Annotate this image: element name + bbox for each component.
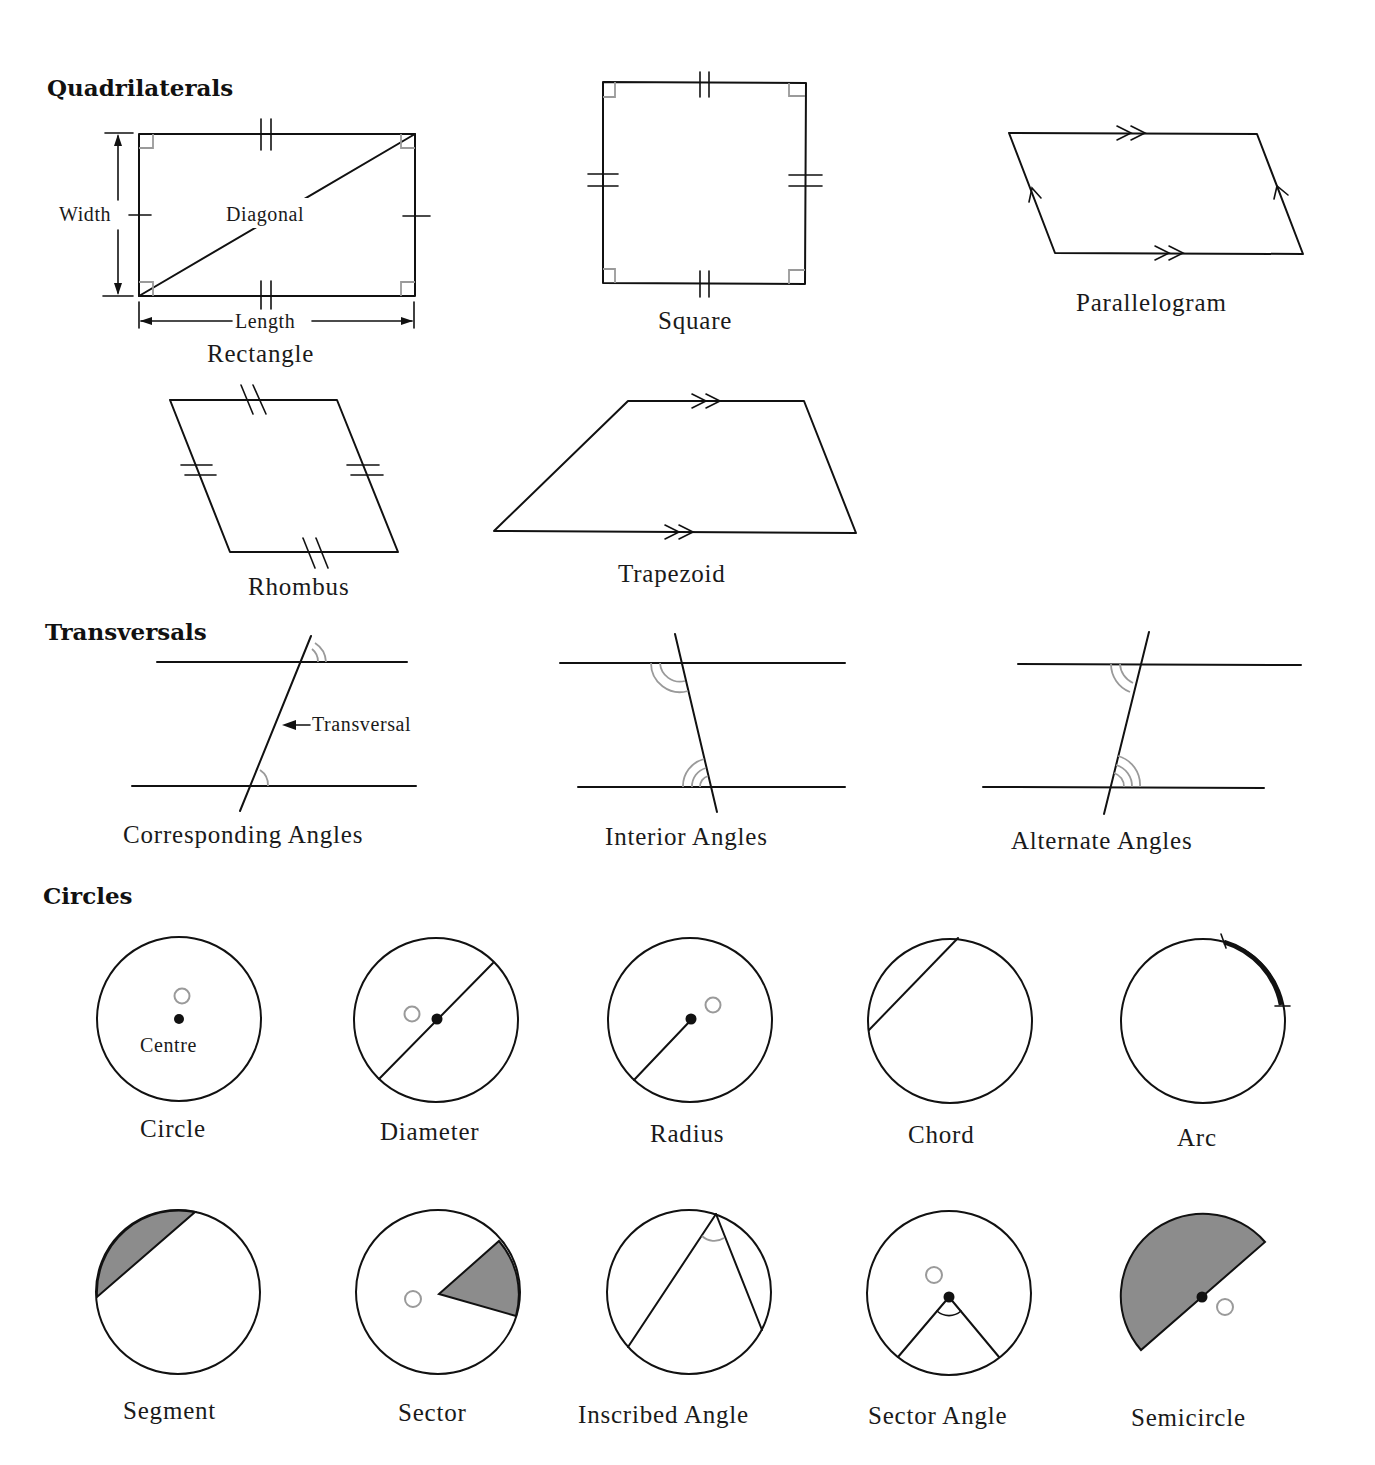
transversal-pointer-label: Transversal bbox=[312, 713, 411, 735]
parallel-line bbox=[1018, 664, 1301, 665]
arc-figure: Arc bbox=[1121, 934, 1290, 1151]
angle-arc bbox=[1114, 773, 1124, 787]
corresponding-angles-caption: Corresponding Angles bbox=[123, 821, 363, 848]
parallelogram-outline bbox=[1009, 133, 1303, 254]
angle-arc bbox=[700, 776, 708, 787]
chord-line bbox=[716, 1214, 762, 1330]
shaded-segment bbox=[97, 1210, 195, 1297]
angle-arc bbox=[660, 663, 685, 682]
corresponding-angles-figure: Transversal Corresponding Angles bbox=[123, 636, 416, 848]
parallelogram-caption: Parallelogram bbox=[1076, 289, 1227, 316]
highlighted-arc bbox=[1224, 942, 1281, 1005]
segment-figure: Segment bbox=[96, 1210, 260, 1424]
rectangle-figure: Diagonal Width Length Rectangle bbox=[59, 119, 430, 367]
centre-label: Centre bbox=[140, 1034, 197, 1056]
interior-angles-caption: Interior Angles bbox=[605, 823, 768, 850]
sector-figure: Sector bbox=[356, 1210, 520, 1426]
interior-angles-figure: Interior Angles bbox=[560, 634, 845, 850]
arrowhead-icon bbox=[401, 317, 413, 325]
sector-caption: Sector bbox=[398, 1399, 467, 1426]
circle-figure: Centre Circle bbox=[97, 937, 261, 1142]
section-heading-circles: Circles bbox=[43, 882, 132, 909]
radius-line bbox=[949, 1297, 999, 1357]
angle-arc bbox=[1120, 664, 1133, 683]
angle-arc bbox=[260, 770, 268, 786]
chord-line bbox=[869, 938, 958, 1030]
right-angle-mark bbox=[603, 82, 615, 97]
square-outline bbox=[603, 82, 806, 284]
centre-point bbox=[686, 1014, 697, 1025]
rhombus-caption: Rhombus bbox=[248, 573, 349, 600]
trapezoid-outline bbox=[494, 401, 856, 533]
right-angle-mark bbox=[789, 270, 805, 284]
right-angle-mark bbox=[139, 134, 153, 148]
rhombus-figure: Rhombus bbox=[170, 385, 398, 600]
sector-angle-caption: Sector Angle bbox=[868, 1402, 1007, 1429]
inscribed-angle-figure: Inscribed Angle bbox=[578, 1210, 771, 1428]
segment-caption: Segment bbox=[123, 1397, 216, 1424]
alternate-angles-caption: Alternate Angles bbox=[1011, 827, 1193, 854]
hollow-marker bbox=[706, 998, 721, 1013]
arrowhead-icon bbox=[114, 283, 122, 295]
semicircle-caption: Semicircle bbox=[1131, 1404, 1246, 1431]
right-angle-mark bbox=[401, 282, 415, 296]
chord-line bbox=[628, 1214, 716, 1347]
hollow-marker bbox=[175, 989, 190, 1004]
angle-arc bbox=[702, 1236, 724, 1241]
alternate-angles-figure: Alternate Angles bbox=[983, 632, 1301, 854]
centre-point bbox=[944, 1292, 955, 1303]
chord-caption: Chord bbox=[908, 1121, 975, 1148]
section-heading-transversals: Transversals bbox=[45, 618, 207, 645]
sector-angle-figure: Sector Angle bbox=[867, 1211, 1031, 1429]
hollow-marker bbox=[926, 1267, 942, 1283]
transversal-line bbox=[675, 634, 717, 812]
rectangle-caption: Rectangle bbox=[207, 340, 314, 367]
geometry-reference-sheet: Quadrilaterals Diagonal Width L bbox=[0, 0, 1375, 1465]
angle-arc bbox=[312, 649, 318, 662]
width-label: Width bbox=[59, 203, 111, 225]
chord-figure: Chord bbox=[868, 938, 1032, 1148]
radius-figure: Radius bbox=[608, 938, 772, 1147]
length-label: Length bbox=[235, 310, 295, 333]
angle-arc bbox=[1118, 756, 1140, 787]
centre-point bbox=[432, 1014, 443, 1025]
angle-arc bbox=[937, 1311, 961, 1316]
radius-line bbox=[634, 1020, 691, 1080]
trapezoid-caption: Trapezoid bbox=[618, 560, 726, 587]
section-heading-quadrilaterals: Quadrilaterals bbox=[47, 74, 233, 101]
hollow-marker bbox=[405, 1291, 421, 1307]
arc-caption: Arc bbox=[1177, 1124, 1217, 1151]
diagonal-label: Diagonal bbox=[226, 203, 304, 226]
shaded-semicircle bbox=[1121, 1214, 1265, 1350]
circle-caption: Circle bbox=[140, 1115, 206, 1142]
square-caption: Square bbox=[658, 307, 732, 334]
hollow-marker bbox=[1217, 1299, 1233, 1315]
radius-caption: Radius bbox=[650, 1120, 724, 1147]
diameter-figure: Diameter bbox=[354, 938, 518, 1145]
arrowhead-icon bbox=[140, 317, 152, 325]
radius-line bbox=[898, 1297, 949, 1357]
right-angle-mark bbox=[603, 269, 615, 283]
semicircle-figure: Semicircle bbox=[1121, 1214, 1265, 1431]
square-figure: Square bbox=[588, 72, 822, 334]
shaded-sector bbox=[439, 1241, 519, 1316]
trapezoid-figure: Trapezoid bbox=[494, 394, 856, 587]
circle-outline bbox=[868, 939, 1032, 1103]
parallelogram-figure: Parallelogram bbox=[1009, 126, 1303, 316]
right-angle-mark bbox=[789, 83, 805, 96]
angle-arc bbox=[315, 643, 326, 662]
rhombus-outline bbox=[170, 400, 398, 552]
arrowhead-icon bbox=[114, 134, 122, 146]
centre-point bbox=[1197, 1292, 1208, 1303]
centre-point bbox=[174, 1014, 184, 1024]
parallel-line bbox=[983, 787, 1264, 788]
inscribed-angle-caption: Inscribed Angle bbox=[578, 1401, 749, 1428]
diameter-caption: Diameter bbox=[380, 1118, 479, 1145]
hollow-marker bbox=[405, 1007, 420, 1022]
